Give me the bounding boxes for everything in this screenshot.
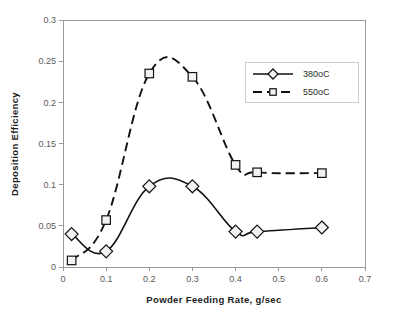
y-tick-label: 0.2 bbox=[43, 98, 56, 108]
data-point-marker bbox=[253, 168, 262, 177]
data-point-marker bbox=[231, 161, 240, 170]
y-tick-label: 0.1 bbox=[43, 180, 56, 190]
chart-legend: 380oC550oC bbox=[245, 62, 358, 102]
data-point-marker bbox=[318, 169, 327, 178]
x-tick-label: 0.5 bbox=[272, 274, 285, 284]
data-point-marker bbox=[145, 69, 154, 78]
legend-label-2: 550oC bbox=[303, 87, 330, 97]
x-axis-title: Powder Feeding Rate, g/sec bbox=[146, 294, 281, 305]
legend-background bbox=[245, 62, 358, 102]
y-tick-label: 0.05 bbox=[38, 221, 56, 231]
legend-label-1: 380oC bbox=[303, 69, 330, 79]
y-tick-label: 0.3 bbox=[43, 15, 56, 25]
y-tick-label: 0 bbox=[51, 262, 56, 272]
y-axis-title: Deposition Efficiency bbox=[9, 92, 20, 196]
x-tick-label: 0.4 bbox=[229, 274, 242, 284]
x-tick-label: 0.2 bbox=[143, 274, 156, 284]
legend-marker-2 bbox=[270, 89, 277, 96]
y-tick-label: 0.25 bbox=[38, 56, 56, 66]
chart-container: 00.050.10.150.20.250.3 00.10.20.30.40.50… bbox=[0, 0, 395, 316]
x-tick-label: 0 bbox=[60, 274, 65, 284]
x-tick-label: 0.1 bbox=[100, 274, 113, 284]
y-tick-label: 0.15 bbox=[38, 139, 56, 149]
x-tick-label: 0.7 bbox=[359, 274, 372, 284]
chart-background bbox=[0, 0, 395, 316]
data-point-marker bbox=[102, 216, 111, 225]
data-point-marker bbox=[67, 256, 76, 265]
x-tick-label: 0.3 bbox=[186, 274, 199, 284]
deposition-efficiency-line-chart: 00.050.10.150.20.250.3 00.10.20.30.40.50… bbox=[0, 0, 395, 316]
x-tick-label: 0.6 bbox=[316, 274, 329, 284]
data-point-marker bbox=[188, 73, 197, 82]
